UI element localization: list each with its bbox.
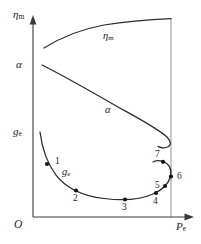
data-point-2[interactable] (74, 188, 78, 192)
data-point-label-3: 3 (122, 203, 127, 213)
curve-label-eta-m-subscript: m (108, 34, 113, 42)
origin-label: O (14, 219, 22, 231)
y-axis-label-subscript: m (18, 12, 24, 21)
data-point-5[interactable] (163, 184, 167, 188)
x-axis-label-symbol: P (176, 220, 183, 232)
y-tick-label-ge: ge (13, 126, 22, 138)
y-tick-ge-subscript: e (19, 129, 22, 138)
curve-label-ge: ge (62, 167, 70, 178)
data-point-4[interactable] (154, 191, 158, 195)
data-point-label-5: 5 (155, 181, 160, 191)
data-point-label-1: 1 (55, 157, 60, 167)
data-point-label-7: 7 (155, 150, 160, 160)
data-point-label-4: 4 (153, 197, 158, 207)
y-axis-arrow-icon (30, 15, 37, 25)
curve-label-alpha-symbol: α (105, 104, 111, 115)
chart-figure: ηm Pe α ge O ηm α ge 1 2 3 4 5 6 7 (0, 0, 201, 244)
x-axis-label: Pe (176, 221, 186, 233)
curve-label-eta-m: ηm (103, 31, 114, 42)
y-tick-alpha-symbol: α (16, 58, 22, 70)
y-axis-label: ηm (13, 9, 24, 21)
data-point-label-6: 6 (177, 172, 182, 182)
data-point-6[interactable] (169, 174, 173, 178)
curve-label-ge-subscript: e (67, 170, 70, 178)
plot-canvas (0, 0, 201, 244)
x-axis-arrow-icon (185, 214, 195, 221)
x-axis-label-subscript: e (183, 224, 186, 233)
y-tick-label-alpha: α (16, 59, 22, 70)
data-point-3[interactable] (123, 197, 127, 201)
data-point-1[interactable] (45, 162, 49, 166)
data-point-7[interactable] (161, 160, 165, 164)
curve-label-alpha: α (105, 105, 111, 116)
data-point-label-2: 2 (73, 194, 78, 204)
